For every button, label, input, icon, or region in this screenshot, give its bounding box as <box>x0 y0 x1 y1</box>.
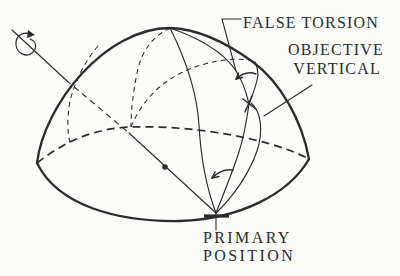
base-ellipse-front-edge <box>37 159 309 221</box>
hidden-curves <box>37 28 309 163</box>
central-meridian <box>170 28 216 213</box>
axis-inner-segment <box>129 133 216 213</box>
primary-position-label-line1: PRIMARY <box>203 229 292 246</box>
rotation-axis <box>12 30 216 213</box>
primary-position-label-line2: POSITION <box>203 247 295 264</box>
false-torsion-angle <box>236 73 256 79</box>
objective-vertical-label-line2: VERTICAL <box>293 60 381 77</box>
eye-vertical-meridian-lower <box>216 104 249 213</box>
axis-hidden-segment <box>66 80 129 133</box>
eye-vertical-meridian-upper <box>170 28 249 104</box>
false-torsion-label: FALSE TORSION <box>243 14 379 31</box>
sphere-center-dot <box>162 164 168 170</box>
visible-meridians <box>170 28 261 213</box>
objective-vertical-meridian-upper <box>249 62 258 104</box>
objective-vertical-leader <box>264 85 312 116</box>
false-torsion-figure: FALSE TORSION OBJECTIVE VERTICAL PRIMARY… <box>0 0 400 276</box>
objective-vertical-label-line1: OBJECTIVE <box>288 41 384 58</box>
hidden-meridian-top-to-backpole <box>131 28 170 127</box>
hidden-objective-vertical-arc <box>131 59 250 127</box>
base-ellipse-back-edge <box>37 127 309 163</box>
dome-outline <box>37 28 309 221</box>
axis-outer-segment <box>12 30 66 80</box>
gaze-point-cross-icon <box>243 96 256 112</box>
gaze-sphere-diagram: FALSE TORSION OBJECTIVE VERTICAL PRIMARY… <box>0 0 400 276</box>
